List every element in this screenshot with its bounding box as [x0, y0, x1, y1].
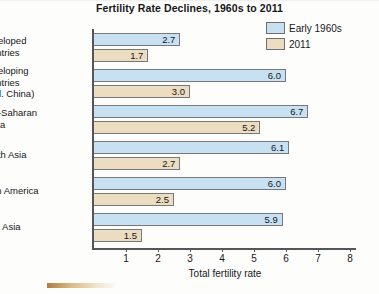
category-label: Developingcountries(excl. China) [0, 65, 67, 100]
x-tick-label: 4 [212, 253, 232, 264]
x-tick [350, 248, 351, 252]
bar[interactable]: 5.9 [94, 213, 283, 226]
bar-value-label: 6.1 [271, 143, 288, 153]
bar-fill: 6.7 [94, 105, 308, 118]
bar-fill: 1.7 [94, 49, 148, 62]
x-tick [254, 248, 255, 252]
bar-value-label: 2.5 [156, 195, 173, 205]
bar[interactable]: 5.2 [94, 121, 260, 134]
bar[interactable]: 6.7 [94, 105, 308, 118]
bar-chart: Fertility Rate Declines, 1960s to 2011 E… [0, 0, 379, 294]
bar-fill: 5.2 [94, 121, 260, 134]
bar-value-label: 2.7 [162, 159, 179, 169]
bar-value-label: 6.7 [290, 107, 307, 117]
category-label: Latin America [0, 185, 67, 197]
bar-value-label: 1.5 [124, 231, 141, 241]
x-tick-label: 8 [340, 253, 360, 264]
bar[interactable]: 1.5 [94, 229, 142, 242]
bar-fill: 6.1 [94, 141, 289, 154]
x-tick-label: 5 [244, 253, 264, 264]
bar-fill: 2.7 [94, 33, 180, 46]
x-tick [158, 248, 159, 252]
x-tick [286, 248, 287, 252]
x-tick-label: 7 [308, 253, 328, 264]
page-edge [0, 0, 379, 1]
bar-value-label: 5.2 [242, 123, 259, 133]
bar-value-label: 5.9 [265, 215, 282, 225]
scan-artifact [47, 283, 115, 288]
bar-fill: 6.0 [94, 69, 286, 82]
bar-value-label: 6.0 [268, 179, 285, 189]
bar-fill: 5.9 [94, 213, 283, 226]
x-tick [222, 248, 223, 252]
chart-title: Fertility Rate Declines, 1960s to 2011 [0, 2, 379, 14]
x-tick-label: 6 [276, 253, 296, 264]
bar-value-label: 2.7 [162, 35, 179, 45]
x-tick-label: 2 [148, 253, 168, 264]
bar[interactable]: 6.0 [94, 69, 286, 82]
bar-fill: 3.0 [94, 85, 190, 98]
category-label: Developedcountries [0, 35, 67, 58]
x-tick [190, 248, 191, 252]
bar[interactable]: 6.1 [94, 141, 289, 154]
bar[interactable]: 2.7 [94, 33, 180, 46]
bar-fill: 1.5 [94, 229, 142, 242]
bar-fill: 6.0 [94, 177, 286, 190]
category-label: Sub-SaharanAfrica [0, 107, 67, 130]
x-tick [126, 248, 127, 252]
plot-area: 2.71.76.03.06.75.26.12.76.02.55.91.5 123… [94, 29, 356, 248]
bar[interactable]: 2.7 [94, 157, 180, 170]
bar-value-label: 3.0 [172, 87, 189, 97]
bar[interactable]: 3.0 [94, 85, 190, 98]
x-tick [318, 248, 319, 252]
bar-fill: 2.5 [94, 193, 174, 206]
category-label: East Asia [0, 221, 67, 233]
bar[interactable]: 1.7 [94, 49, 148, 62]
bar-fill: 2.7 [94, 157, 180, 170]
bar[interactable]: 2.5 [94, 193, 174, 206]
x-axis-title: Total fertility rate [94, 268, 356, 279]
x-axis-line [92, 248, 356, 250]
bar[interactable]: 6.0 [94, 177, 286, 190]
x-tick-label: 3 [180, 253, 200, 264]
category-label: South Asia [0, 149, 67, 161]
bar-value-label: 1.7 [130, 51, 147, 61]
bar-value-label: 6.0 [268, 71, 285, 81]
x-tick-label: 1 [116, 253, 136, 264]
